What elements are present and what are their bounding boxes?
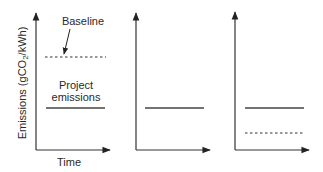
x-axis-label: Time bbox=[49, 156, 89, 168]
y-axis-label-prefix: Emissions (gCO bbox=[16, 60, 28, 139]
project-emissions-label-line1: Project bbox=[46, 79, 106, 91]
baseline-pointer-arrow bbox=[64, 29, 70, 54]
panel-2 bbox=[136, 13, 210, 150]
y-axis-label-subscript: 2 bbox=[21, 55, 30, 59]
project-emissions-label-line2: emissions bbox=[46, 91, 106, 103]
baseline-label: Baseline bbox=[58, 15, 108, 27]
panel-3 bbox=[235, 12, 309, 150]
y-axis-label-suffix: /kWh) bbox=[16, 27, 28, 56]
y-axis-label: Emissions (gCO2/kWh) bbox=[16, 27, 28, 140]
